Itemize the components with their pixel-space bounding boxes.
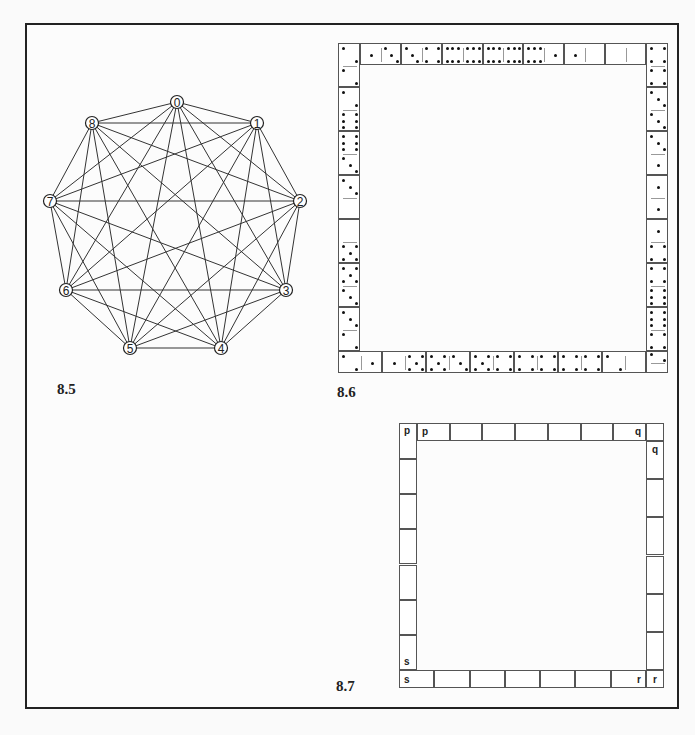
pip: [540, 355, 543, 358]
frame-cell: [575, 670, 610, 688]
pip: [457, 47, 460, 50]
frame-cell: p: [417, 423, 450, 441]
domino-tile: [646, 219, 668, 263]
frame-cell: [646, 632, 664, 670]
pip: [575, 355, 578, 358]
pip: [492, 60, 495, 63]
pip: [509, 355, 512, 358]
pip: [342, 126, 345, 129]
pip: [498, 60, 501, 63]
pip: [487, 355, 490, 358]
pip: [650, 353, 653, 356]
corner-letter: r: [653, 674, 657, 685]
figure-label-8-7: 8.7: [336, 678, 355, 695]
pip: [355, 192, 358, 195]
pip: [663, 148, 666, 151]
pip: [342, 333, 345, 336]
domino-tile: [646, 43, 668, 87]
corner-letter: s: [404, 674, 410, 685]
pip: [384, 47, 387, 50]
pip: [518, 60, 521, 63]
pip: [663, 318, 666, 321]
svg-text:4: 4: [218, 342, 225, 356]
pip: [650, 113, 653, 116]
domino-tile: [483, 43, 524, 65]
pip: [650, 302, 653, 305]
pip: [509, 368, 512, 371]
pip: [459, 362, 462, 365]
pip: [355, 324, 358, 327]
svg-text:5: 5: [127, 342, 134, 356]
frame-cell: [581, 423, 614, 441]
frame-cell: r: [646, 670, 664, 688]
graph-node-7: 7: [44, 195, 57, 209]
pip: [650, 135, 653, 138]
pip: [342, 148, 345, 151]
pip: [539, 47, 542, 50]
frame-cell: [646, 594, 664, 632]
pip: [452, 355, 455, 358]
frame-cell: [482, 423, 515, 441]
pip: [663, 333, 666, 336]
frame-cell: [399, 529, 417, 564]
graph-node-1: 1: [251, 117, 264, 131]
corner-letter: s: [404, 656, 410, 667]
pip: [355, 267, 358, 270]
pip: [342, 267, 345, 270]
domino-tile: [442, 43, 483, 65]
pip: [575, 368, 578, 371]
domino-frame: [338, 43, 668, 373]
pip: [584, 355, 587, 358]
pip: [421, 355, 424, 358]
corner-letter: p: [404, 425, 410, 436]
pip: [349, 186, 352, 189]
pip: [466, 47, 469, 50]
pip: [487, 60, 490, 63]
pip: [663, 60, 666, 63]
frame-cell: [646, 423, 664, 441]
domino-tile: [602, 351, 646, 373]
domino-tile: [646, 87, 668, 131]
pip: [437, 47, 440, 50]
pip: [533, 60, 536, 63]
pip: [390, 54, 393, 57]
frame-cell: [399, 494, 417, 529]
graph-node-5: 5: [124, 342, 137, 356]
pip: [663, 126, 666, 129]
frame-cell: [646, 517, 664, 555]
pip: [370, 54, 373, 57]
pip: [443, 355, 446, 358]
pip: [553, 368, 556, 371]
frame-cell: [450, 423, 483, 441]
pip: [349, 274, 352, 277]
pip: [342, 135, 345, 138]
pip: [466, 60, 469, 63]
pip: [533, 47, 536, 50]
pip: [650, 60, 653, 63]
svg-text:2: 2: [297, 195, 304, 209]
domino-tile: [646, 263, 668, 307]
pip: [355, 148, 358, 151]
svg-text:1: 1: [254, 117, 261, 131]
pip: [663, 267, 666, 270]
pip: [487, 368, 490, 371]
frame-cell: [399, 600, 417, 635]
frame-cell: [515, 423, 548, 441]
frame-cell: [470, 670, 505, 688]
pip: [527, 60, 530, 63]
pip: [597, 355, 600, 358]
domino-tile: [646, 351, 668, 373]
pip: [657, 142, 660, 145]
pip: [355, 120, 358, 123]
empty-domino-frame: pspqqsrr: [399, 423, 664, 688]
pip: [487, 47, 490, 50]
pip: [554, 54, 557, 57]
pip: [650, 280, 653, 283]
pip: [650, 91, 653, 94]
frame-cell: [548, 423, 581, 441]
pip: [539, 60, 542, 63]
domino-tile: [646, 131, 668, 175]
pip: [342, 311, 345, 314]
pip: [411, 54, 414, 57]
graph-node-4: 4: [215, 342, 228, 356]
